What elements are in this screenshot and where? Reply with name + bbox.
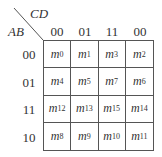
minterm-cell: m2 — [126, 41, 153, 68]
minterm-cell: m13 — [71, 96, 98, 123]
column-header: 01 — [71, 24, 99, 40]
minterm-cell: m5 — [71, 68, 98, 95]
minterm-symbol: m — [133, 74, 142, 89]
minterm-symbol: m — [51, 47, 60, 62]
minterm-index: 8 — [59, 132, 63, 141]
minterm-index: 3 — [114, 50, 118, 59]
minterm-cell: m10 — [99, 123, 126, 150]
kmap-grid: m0 m1 m3 m2 m4 m5 m7 m6 m12 m13 m15 m14 … — [43, 40, 154, 151]
minterm-index: 7 — [114, 77, 118, 86]
column-header: 00 — [43, 24, 71, 40]
minterm-symbol: m — [78, 129, 87, 144]
minterm-symbol: m — [51, 74, 60, 89]
minterm-symbol: m — [103, 101, 112, 116]
minterm-symbol: m — [131, 129, 140, 144]
minterm-symbol: m — [105, 47, 114, 62]
minterm-cell: m12 — [44, 96, 71, 123]
kmap-corner: CD AB — [0, 0, 44, 41]
minterm-index: 10 — [112, 132, 120, 141]
row-header: 10 — [18, 130, 40, 146]
minterm-symbol: m — [78, 74, 87, 89]
minterm-index: 5 — [87, 77, 91, 86]
minterm-cell: m15 — [99, 96, 126, 123]
minterm-index: 11 — [140, 132, 148, 141]
minterm-index: 12 — [57, 104, 65, 113]
minterm-cell: m14 — [126, 96, 153, 123]
minterm-symbol: m — [133, 47, 142, 62]
row-header: 01 — [18, 75, 40, 91]
minterm-symbol: m — [49, 101, 58, 116]
minterm-symbol: m — [105, 74, 114, 89]
minterm-symbol: m — [103, 129, 112, 144]
minterm-index: 9 — [87, 132, 91, 141]
minterm-cell: m4 — [44, 68, 71, 95]
minterm-cell: m11 — [126, 123, 153, 150]
minterm-cell: m0 — [44, 41, 71, 68]
minterm-index: 13 — [85, 104, 93, 113]
minterm-symbol: m — [78, 47, 87, 62]
minterm-symbol: m — [76, 101, 85, 116]
minterm-index: 1 — [87, 50, 91, 59]
row-header: 11 — [18, 102, 40, 118]
minterm-index: 15 — [112, 104, 120, 113]
minterm-cell: m1 — [71, 41, 98, 68]
minterm-index: 0 — [59, 50, 63, 59]
minterm-symbol: m — [51, 129, 60, 144]
minterm-index: 6 — [142, 77, 146, 86]
column-header: 00 — [126, 24, 154, 40]
row-variable-label: AB — [8, 24, 24, 40]
row-header: 00 — [18, 47, 40, 63]
minterm-cell: m9 — [71, 123, 98, 150]
minterm-index: 4 — [59, 77, 63, 86]
minterm-cell: m7 — [99, 68, 126, 95]
column-variable-label: CD — [30, 6, 48, 22]
column-header: 11 — [98, 24, 126, 40]
minterm-symbol: m — [131, 101, 140, 116]
minterm-index: 2 — [142, 50, 146, 59]
minterm-cell: m8 — [44, 123, 71, 150]
minterm-cell: m6 — [126, 68, 153, 95]
minterm-index: 14 — [140, 104, 148, 113]
minterm-cell: m3 — [99, 41, 126, 68]
